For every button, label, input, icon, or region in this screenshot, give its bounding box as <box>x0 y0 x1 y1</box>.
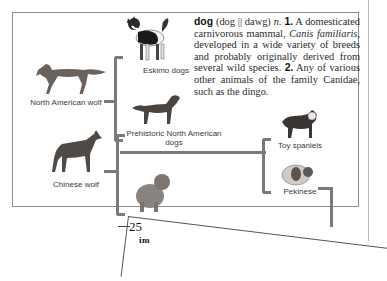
page-edge <box>368 0 369 241</box>
bracket-chinese-wolf-branch <box>116 134 125 216</box>
bracket-wolf-branch <box>114 56 123 142</box>
pekinese-illustration <box>280 164 316 186</box>
headword: dog <box>194 16 213 27</box>
label-prehistoric-dogs: Prehistoric North American dogs <box>124 129 224 147</box>
label-eskimo-dogs: Eskimo dogs <box>136 66 196 75</box>
part-of-speech: n. <box>274 16 282 27</box>
prehistoric-dog-illustration <box>128 90 184 126</box>
scientific-name: Canis familiaris, <box>289 28 360 39</box>
next-page-corner <box>121 216 387 281</box>
north-american-wolf-illustration <box>30 60 110 94</box>
eskimo-dog-illustration <box>120 14 172 66</box>
dictionary-definition: dog (dog || dawg) n. 1. A domesticated c… <box>194 16 360 97</box>
label-chinese-wolf: Chinese wolf <box>46 180 106 189</box>
partial-word: im <box>139 235 150 245</box>
label-toy-spaniels: Toy spaniels <box>268 141 332 150</box>
sense-2-number: 2. <box>285 62 294 73</box>
toy-spaniel-illustration <box>278 108 318 140</box>
page-number: 25 <box>129 219 142 235</box>
chinese-wolf-illustration <box>50 130 106 176</box>
connector-line-down <box>330 187 333 227</box>
label-north-american-wolf: North American wolf <box>26 98 106 107</box>
sense-1-number: 1. <box>284 16 293 27</box>
chow-dog-illustration <box>130 172 174 214</box>
pronunciation: (dog || dawg) <box>216 16 271 27</box>
connector-line-toy <box>120 151 266 154</box>
